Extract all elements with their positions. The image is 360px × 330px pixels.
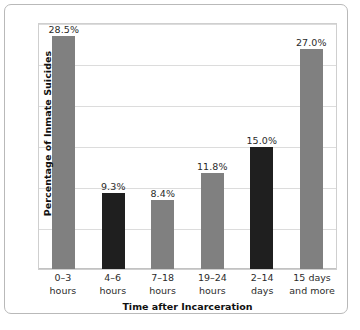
x-tick-line-1: 19–24 [187, 272, 237, 285]
x-tick-line-2: and more [287, 285, 337, 298]
bar-5 [300, 49, 323, 270]
x-tick-line-2: hours [88, 285, 138, 298]
bar-value-label: 27.0% [296, 37, 327, 48]
chart-figure: 28.5% 9.3% 8.4% 11.8% 15.0% 27.0% [4, 4, 348, 314]
bar-3 [201, 173, 224, 269]
bar-group-4: 15.0% [239, 24, 285, 269]
x-axis-title: Time after Incarceration [38, 301, 337, 312]
bar-value-label: 9.3% [101, 181, 126, 192]
x-tick-5: 15 days and more [287, 272, 337, 297]
x-tick-line-2: hours [187, 285, 237, 298]
bar-4 [250, 147, 273, 270]
bar-value-label: 8.4% [150, 188, 175, 199]
bar-group-5: 27.0% [288, 24, 334, 269]
x-tick-line-1: 4–6 [88, 272, 138, 285]
bar-value-label: 11.8% [197, 161, 228, 172]
x-tick-line-2: hours [138, 285, 188, 298]
bar-2 [151, 200, 174, 269]
x-tick-line-1: 2–14 [237, 272, 287, 285]
x-tick-line-2: hours [38, 285, 88, 298]
bar-group-3: 11.8% [189, 24, 235, 269]
bar-group-2: 8.4% [140, 24, 186, 269]
bar-series: 28.5% 9.3% 8.4% 11.8% 15.0% 27.0% [39, 24, 336, 269]
bar-1 [102, 193, 125, 269]
x-tick-3: 19–24 hours [187, 272, 237, 297]
x-tick-line-1: 15 days [287, 272, 337, 285]
bar-value-label: 28.5% [48, 24, 79, 35]
plot-area: 28.5% 9.3% 8.4% 11.8% 15.0% 27.0% [38, 23, 337, 270]
x-tick-line-1: 7–18 [138, 272, 188, 285]
bar-0 [52, 36, 75, 269]
x-tick-4: 2–14 days [237, 272, 287, 297]
x-axis-tick-labels: 0–3 hours 4–6 hours 7–18 hours 19–24 hou… [38, 272, 337, 297]
x-tick-line-1: 0–3 [38, 272, 88, 285]
x-tick-2: 7–18 hours [138, 272, 188, 297]
bar-value-label: 15.0% [246, 135, 277, 146]
x-tick-0: 0–3 hours [38, 272, 88, 297]
x-tick-line-2: days [237, 285, 287, 298]
x-tick-1: 4–6 hours [88, 272, 138, 297]
y-axis-title: Percentage of Inmate Suicides [42, 14, 53, 254]
bar-group-1: 9.3% [90, 24, 136, 269]
